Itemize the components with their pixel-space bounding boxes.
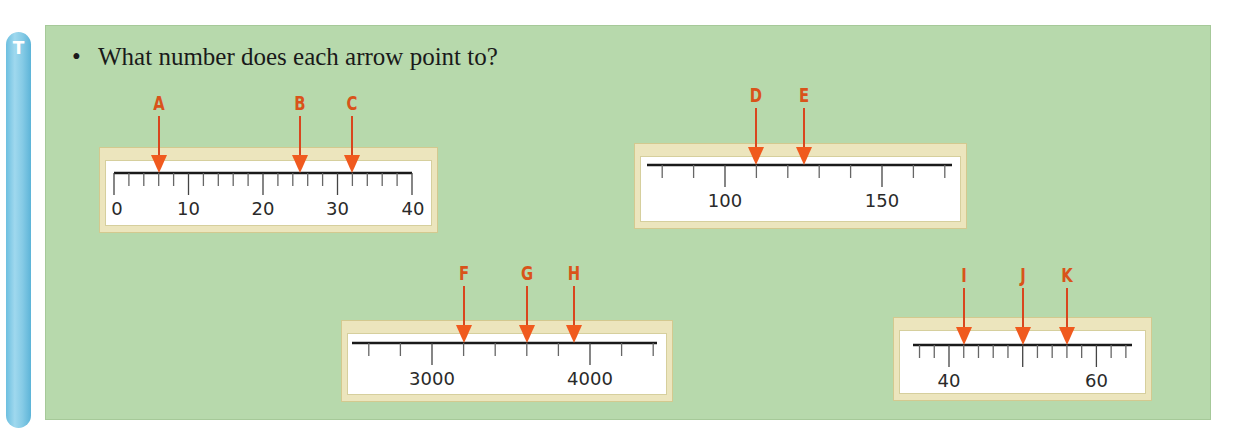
down-arrow-icon [956,288,972,345]
arrow-label-j: J [1020,264,1026,286]
tick-label: 40 [938,371,961,391]
down-arrow-icon [1059,288,1075,345]
down-arrow-icon [1015,288,1031,345]
tick-label: 60 [1085,371,1108,391]
arrow-label-i: I [961,264,967,286]
number-line-4 [0,0,1256,445]
arrow-label-k: K [1061,264,1072,286]
